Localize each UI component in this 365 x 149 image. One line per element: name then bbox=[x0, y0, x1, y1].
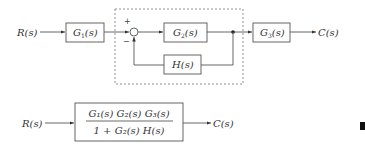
summing-junction bbox=[130, 28, 138, 36]
block-g2: G2(s) bbox=[164, 23, 207, 42]
block-g1: G1(s) bbox=[66, 23, 104, 42]
svg-text:G2(s): G2(s) bbox=[173, 27, 198, 39]
svg-text:G3(s): G3(s) bbox=[260, 27, 285, 39]
original-block-diagram: R(s) G1(s) + − G2(s) H(s) G3(s) C(s) bbox=[16, 9, 339, 84]
block-diagram: R(s) G1(s) + − G2(s) H(s) G3(s) C(s) bbox=[0, 0, 365, 149]
feedback-path-to-sum bbox=[134, 37, 164, 65]
numerator: G₁(s) G₂(s) G₃(s) bbox=[88, 108, 169, 119]
end-of-proof-square bbox=[360, 122, 365, 130]
reduced-block-diagram: R(s) G₁(s) G₂(s) G₃(s) 1 + G₂(s) H(s) C(… bbox=[21, 103, 234, 141]
plus-sign: + bbox=[124, 17, 131, 26]
input-r-label: R(s) bbox=[16, 27, 38, 38]
svg-text:G1(s): G1(s) bbox=[73, 27, 98, 39]
svg-text:H(s): H(s) bbox=[171, 59, 194, 70]
output-c-label: C(s) bbox=[318, 27, 339, 38]
minus-sign: − bbox=[123, 37, 130, 46]
denominator: 1 + G₂(s) H(s) bbox=[94, 125, 165, 136]
reduced-input-r-label: R(s) bbox=[21, 118, 43, 129]
block-g3: G3(s) bbox=[253, 23, 290, 42]
block-h: H(s) bbox=[164, 55, 201, 74]
reduced-output-c-label: C(s) bbox=[213, 118, 234, 129]
